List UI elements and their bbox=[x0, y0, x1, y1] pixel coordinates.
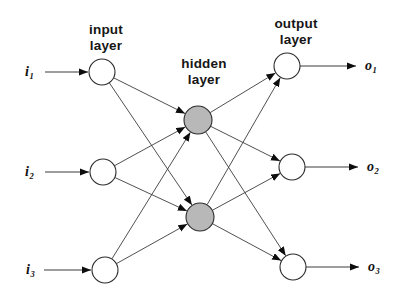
output-label-o2-base: o bbox=[367, 159, 374, 174]
edge-h2-o3 bbox=[213, 224, 282, 261]
output-layer-label-line2: layer bbox=[256, 32, 336, 48]
node-h2 bbox=[186, 203, 214, 231]
input-layer-label-line2: layer bbox=[66, 38, 146, 54]
node-i2 bbox=[90, 159, 116, 185]
hidden-layer-label-line2: layer bbox=[164, 72, 244, 88]
input-label-i1-sub: 1 bbox=[29, 71, 33, 81]
output-label-o3: o3 bbox=[368, 258, 380, 276]
edge-h2-o2 bbox=[213, 173, 281, 210]
edge-i2-h2 bbox=[115, 178, 187, 211]
node-i3 bbox=[92, 257, 118, 283]
output-label-o2: o2 bbox=[367, 158, 379, 176]
input-label-i2-sub: 2 bbox=[29, 171, 33, 181]
hidden-layer-label-line1: hidden bbox=[164, 56, 244, 72]
node-o2 bbox=[279, 154, 305, 180]
network-svg bbox=[0, 0, 397, 299]
edge-h2-o1 bbox=[207, 78, 280, 205]
edge-i3-h1 bbox=[112, 132, 190, 258]
output-label-o2-sub: 2 bbox=[375, 166, 379, 176]
output-label-o1-sub: 1 bbox=[373, 65, 377, 75]
node-i1 bbox=[89, 59, 115, 85]
node-o3 bbox=[280, 254, 306, 280]
node-o1 bbox=[274, 53, 300, 79]
output-label-o3-sub: 3 bbox=[376, 266, 380, 276]
output-label-o1: o1 bbox=[365, 57, 377, 75]
input-label-i3: i3 bbox=[26, 261, 35, 279]
input-label-i3-sub: 3 bbox=[30, 269, 34, 279]
input-label-i2: i2 bbox=[25, 163, 34, 181]
hidden-layer-label: hidden layer bbox=[164, 56, 244, 88]
edge-i1-h2 bbox=[109, 83, 191, 205]
diagram-canvas: input layer hidden layer output layer i1… bbox=[0, 0, 397, 299]
output-layer-label: output layer bbox=[256, 16, 336, 48]
edge-i3-h2 bbox=[117, 224, 188, 263]
edge-i2-h1 bbox=[115, 127, 186, 166]
input-layer-label: input layer bbox=[66, 22, 146, 54]
input-label-i1: i1 bbox=[25, 63, 34, 81]
output-label-o1-base: o bbox=[365, 58, 372, 73]
input-layer-label-line1: input bbox=[66, 22, 146, 38]
output-layer-label-line1: output bbox=[256, 16, 336, 32]
output-label-o3-base: o bbox=[368, 259, 375, 274]
edge-h1-o3 bbox=[206, 132, 286, 256]
node-h1 bbox=[184, 106, 212, 134]
